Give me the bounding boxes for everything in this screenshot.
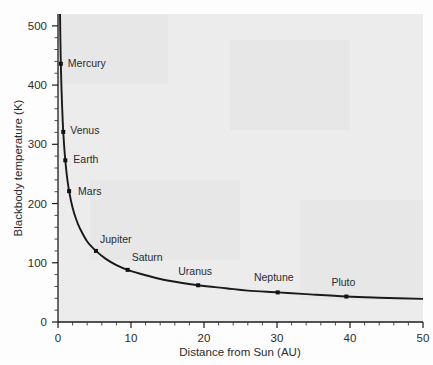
planet-marker xyxy=(59,62,63,66)
y-tick-label: 500 xyxy=(28,20,47,32)
chart-canvas: 01020304050 0100200300400500 MercuryVenu… xyxy=(0,0,433,365)
x-tick-label: 10 xyxy=(125,332,138,344)
planet-marker xyxy=(276,290,280,294)
x-axis-ticks xyxy=(58,322,423,328)
planet-marker xyxy=(61,130,65,134)
y-axis-ticks xyxy=(52,26,58,322)
x-tick-label: 0 xyxy=(55,332,61,344)
planet-label-jupiter: Jupiter xyxy=(100,233,132,245)
x-axis-tick-labels: 01020304050 xyxy=(55,332,430,344)
planet-label-uranus: Uranus xyxy=(178,265,212,277)
planet-marker xyxy=(67,189,71,193)
planet-marker xyxy=(344,295,348,299)
x-tick-label: 50 xyxy=(417,332,430,344)
planet-label-saturn: Saturn xyxy=(132,251,163,263)
planet-label-neptune: Neptune xyxy=(254,271,294,283)
y-tick-label: 100 xyxy=(28,257,47,269)
planet-label-venus: Venus xyxy=(70,124,99,136)
x-axis-title: Distance from Sun (AU) xyxy=(179,346,301,358)
y-tick-label: 300 xyxy=(28,138,47,150)
x-tick-label: 40 xyxy=(344,332,357,344)
planet-label-mars: Mars xyxy=(78,185,101,197)
planet-marker xyxy=(63,158,67,162)
blackbody-temperature-chart: 01020304050 0100200300400500 MercuryVenu… xyxy=(0,0,433,365)
planet-marker xyxy=(126,268,130,272)
planet-label-pluto: Pluto xyxy=(331,276,355,288)
planet-label-mercury: Mercury xyxy=(68,57,107,69)
x-tick-label: 30 xyxy=(271,332,284,344)
planet-marker xyxy=(196,283,200,287)
y-tick-label: 0 xyxy=(41,316,47,328)
plot-background xyxy=(58,14,423,322)
y-tick-label: 200 xyxy=(28,198,47,210)
planet-label-earth: Earth xyxy=(73,153,98,165)
x-tick-label: 20 xyxy=(198,332,211,344)
y-tick-label: 400 xyxy=(28,79,47,91)
y-axis-title: Blackbody temperature (K) xyxy=(12,99,24,236)
planet-marker xyxy=(94,249,98,253)
y-axis-tick-labels: 0100200300400500 xyxy=(28,20,47,328)
